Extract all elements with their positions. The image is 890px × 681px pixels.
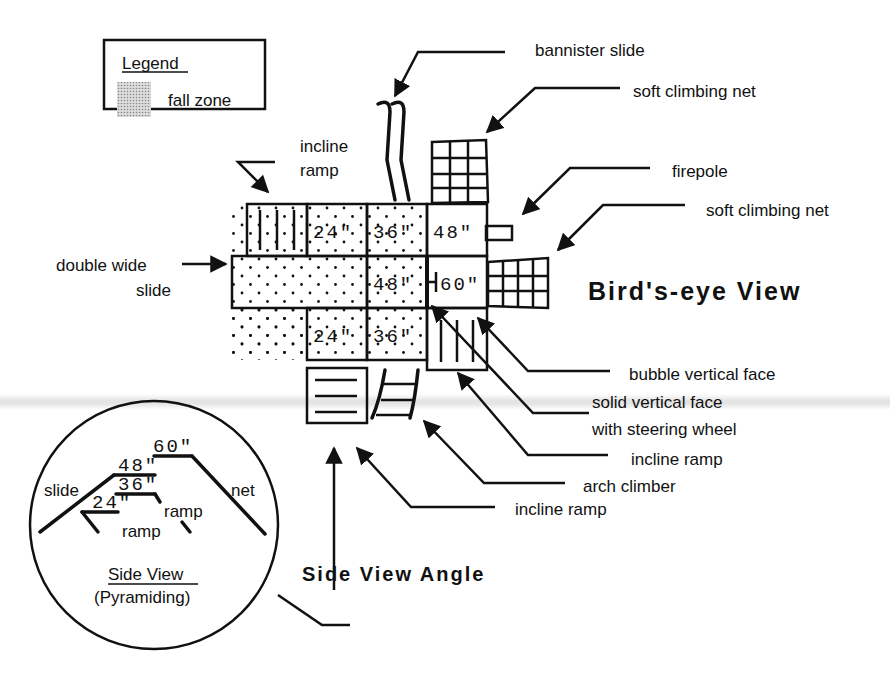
legend: Legend fall zone <box>104 40 265 117</box>
side-view-subtitle: (Pyramiding) <box>94 588 190 607</box>
label-double-wide-slide-1: double wide <box>56 256 147 275</box>
label-incline-ramp-right: incline ramp <box>631 450 723 469</box>
label-bubble-vertical-face: bubble vertical face <box>629 365 775 384</box>
height-bot-2: 36" <box>373 326 413 348</box>
height-top-1: 24" <box>313 222 353 244</box>
side-height-60: 60" <box>153 436 193 458</box>
label-incline-ramp-top-1: incline <box>300 137 348 156</box>
side-height-24: 24" <box>92 492 132 514</box>
side-label-ramp-lower: ramp <box>122 522 161 541</box>
label-soft-climbing-net-top: soft climbing net <box>633 82 756 101</box>
fall-zone-swatch <box>117 82 151 117</box>
height-mid-1: 48" <box>373 274 413 296</box>
height-top-3: 48" <box>433 222 473 244</box>
height-top-2: 36" <box>373 222 413 244</box>
legend-title: Legend <box>122 54 179 73</box>
label-solid-vertical-face: solid vertical face <box>592 393 722 412</box>
height-bot-1: 24" <box>313 326 353 348</box>
label-soft-climbing-net-right: soft climbing net <box>706 201 829 220</box>
legend-item-fall-zone: fall zone <box>168 91 231 110</box>
side-view-title: Side View <box>108 565 184 584</box>
soft-climbing-net-right <box>488 258 548 308</box>
label-double-wide-slide-2: slide <box>136 281 171 300</box>
side-label-slide: slide <box>44 481 79 500</box>
label-incline-ramp-top-2: ramp <box>300 161 339 180</box>
label-incline-ramp-bottom: incline ramp <box>515 500 607 519</box>
label-firepole: firepole <box>672 162 728 181</box>
bannister-slide <box>378 102 409 200</box>
side-label-ramp-upper: ramp <box>164 502 203 521</box>
label-solid-vertical-face-2: with steering wheel <box>591 420 737 439</box>
height-mid-2: 60" <box>440 274 480 296</box>
label-bannister-slide: bannister slide <box>535 41 645 60</box>
birds-eye-view-title: Bird's-eye View <box>588 277 801 305</box>
soft-climbing-net-top <box>432 140 488 203</box>
label-arch-climber: arch climber <box>583 477 676 496</box>
side-label-net: net <box>231 481 255 500</box>
side-view-angle-label: Side View Angle <box>302 563 485 585</box>
